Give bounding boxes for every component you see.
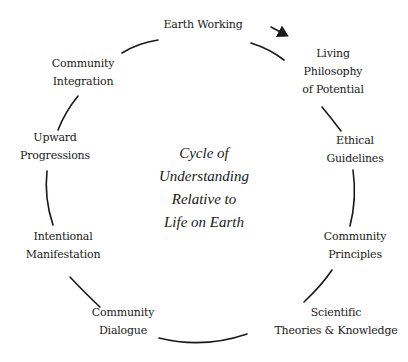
cycle-title: Cycle of Understanding Relative to Life … — [159, 142, 249, 234]
node-ethical-guidelines: Ethical Guidelines — [326, 132, 383, 168]
node-label: Upward — [20, 129, 90, 147]
node-label: Dialogue — [92, 322, 154, 340]
title-line: Understanding — [159, 165, 249, 188]
node-label: Community — [324, 228, 386, 246]
node-label: Scientific — [274, 304, 397, 322]
node-community-dialogue: Community Dialogue — [92, 304, 154, 340]
node-living-philosophy: Living Philosophy of Potential — [302, 45, 363, 99]
title-line: Relative to — [159, 188, 249, 211]
arc-ethical-to-principles — [350, 170, 354, 226]
arc-principles-to-scientific — [304, 270, 332, 302]
node-upward-progressions: Upward Progressions — [20, 129, 90, 165]
node-label: Progressions — [20, 147, 90, 165]
arc-scientific-to-dialogue — [159, 334, 247, 343]
cycle-diagram: Cycle of Understanding Relative to Life … — [0, 0, 408, 362]
node-label: Living — [302, 45, 363, 63]
node-label: Community — [92, 304, 154, 322]
title-line: Life on Earth — [159, 211, 249, 234]
arc-living-to-ethical — [322, 107, 341, 131]
node-label: Earth Working — [164, 16, 243, 34]
node-label: Integration — [52, 73, 114, 91]
node-label: Principles — [324, 246, 386, 264]
arc-upward-to-integration — [58, 96, 78, 130]
node-label: Philosophy — [302, 63, 363, 81]
arc-integration-to-earth — [122, 40, 158, 53]
node-label: Ethical — [326, 132, 383, 150]
node-label: Manifestation — [26, 246, 101, 264]
node-intentional-manifestation: Intentional Manifestation — [26, 228, 101, 264]
title-line: Cycle of — [159, 142, 249, 165]
node-label: Theories & Knowledge — [274, 322, 397, 340]
node-label: Guidelines — [326, 150, 383, 168]
node-scientific-theories: Scientific Theories & Knowledge — [274, 304, 397, 340]
node-earth-working: Earth Working — [164, 16, 243, 34]
direction-arrow-icon — [271, 27, 286, 35]
arc-dialogue-to-manifestation — [70, 277, 100, 307]
node-label: Intentional — [26, 228, 101, 246]
arc-manifestation-to-upward — [46, 171, 53, 225]
node-label: Community — [52, 55, 114, 73]
node-community-integration: Community Integration — [52, 55, 114, 91]
node-community-principles: Community Principles — [324, 228, 386, 264]
node-label: of Potential — [302, 81, 363, 99]
arc-earth-to-living — [251, 43, 284, 60]
